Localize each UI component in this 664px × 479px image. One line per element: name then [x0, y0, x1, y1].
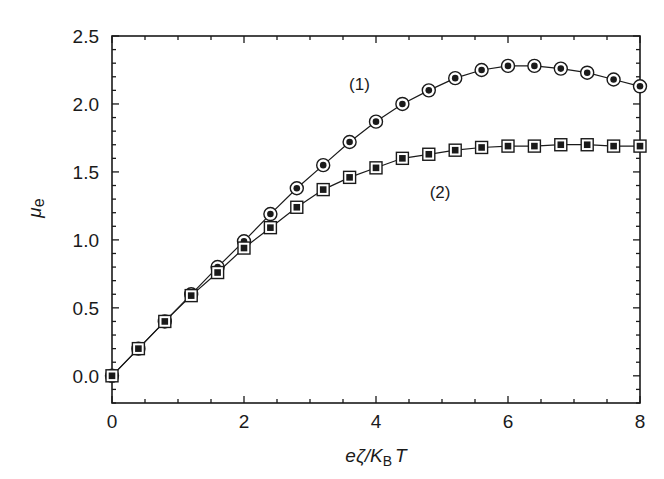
series-line	[112, 66, 640, 376]
circle-marker-dot	[637, 83, 644, 90]
square-marker-dot	[109, 373, 116, 380]
x-tick-label: 2	[239, 411, 250, 432]
chart: 02468 0.00.51.01.52.02.5 (1)(2) eζ/KBT μ…	[0, 0, 664, 479]
square-marker-dot	[610, 143, 617, 150]
square-marker-dot	[267, 224, 274, 231]
circle-marker-dot	[399, 101, 406, 108]
series-2	[106, 139, 646, 382]
square-marker-dot	[346, 174, 353, 181]
y-tick-label: 1.0	[73, 230, 99, 251]
x-axis: 02468	[107, 36, 646, 432]
square-marker-dot	[426, 151, 433, 158]
circle-marker-dot	[294, 185, 301, 192]
square-marker-dot	[135, 345, 142, 352]
circle-marker-dot	[584, 69, 591, 76]
y-tick-label: 2.5	[73, 26, 99, 47]
series-1	[106, 59, 647, 382]
square-marker-dot	[637, 143, 644, 150]
square-marker-dot	[214, 269, 221, 276]
circle-marker-dot	[452, 75, 459, 82]
series-layer	[106, 59, 647, 382]
square-marker-dot	[162, 318, 169, 325]
circle-marker-dot	[426, 87, 433, 94]
square-marker-dot	[478, 144, 485, 151]
square-marker-dot	[373, 165, 380, 172]
circle-marker-dot	[478, 67, 485, 74]
plot-border	[112, 36, 640, 403]
annotation-layer: (1)(2)	[349, 75, 450, 203]
square-marker-dot	[241, 245, 248, 252]
circle-marker-dot	[610, 76, 617, 83]
square-marker-dot	[294, 204, 301, 211]
square-marker-dot	[505, 143, 512, 150]
square-marker-dot	[320, 186, 327, 193]
circle-marker-dot	[505, 63, 512, 70]
circle-marker-dot	[346, 139, 353, 146]
series-label-2: (2)	[430, 183, 451, 202]
circle-marker-dot	[373, 118, 380, 125]
series-label-1: (1)	[349, 75, 370, 94]
square-marker-dot	[584, 141, 591, 148]
x-tick-label: 4	[371, 411, 382, 432]
y-tick-label: 2.0	[73, 94, 99, 115]
circle-marker-dot	[320, 162, 327, 169]
x-tick-label: 6	[503, 411, 514, 432]
x-tick-label: 8	[635, 411, 646, 432]
x-axis-title: eζ/KBT	[345, 445, 408, 469]
y-tick-label: 0.0	[73, 366, 99, 387]
circle-marker-dot	[267, 211, 274, 218]
square-marker-dot	[399, 155, 406, 162]
circle-marker-dot	[558, 65, 565, 72]
circle-marker-dot	[531, 63, 538, 70]
square-marker-dot	[452, 147, 459, 154]
square-marker-dot	[558, 141, 565, 148]
plot-frame	[112, 36, 640, 403]
series-line	[112, 145, 640, 376]
square-marker-dot	[531, 143, 538, 150]
y-axis-title: μe	[24, 198, 47, 218]
square-marker-dot	[188, 292, 195, 299]
y-tick-label: 1.5	[73, 162, 99, 183]
y-tick-label: 0.5	[73, 298, 99, 319]
x-tick-label: 0	[107, 411, 118, 432]
